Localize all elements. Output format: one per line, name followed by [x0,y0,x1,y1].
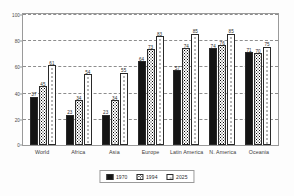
y-axis-tick-0: 0 [17,143,20,148]
bar[interactable]: 71 [245,52,253,145]
bar-value-label: 37 [31,92,36,97]
bar-wrap: 55 [120,14,128,145]
bar[interactable]: 74 [209,48,217,145]
bar-value-label: 75 [264,42,269,47]
bar-value-label: 85 [193,29,198,34]
bar-wrap: 23 [66,14,74,145]
bar[interactable]: 61 [48,65,56,145]
bar[interactable]: 73 [147,49,155,145]
legend-swatch [167,174,174,180]
bar-value-label: 54 [85,70,90,75]
bar-groups: 3745612334542334556473835774857476857170… [23,14,278,145]
bar-value-label: 34 [76,96,81,101]
bar-value-label: 73 [148,45,153,50]
y-axis-tick-100: 100 [12,13,20,18]
bar-wrap: 54 [84,14,92,145]
bar-wrap: 37 [30,14,38,145]
bar-wrap: 73 [147,14,155,145]
bar-group: 577485 [168,14,204,145]
bar-value-label: 57 [175,66,180,71]
bar-group: 717075 [240,14,276,145]
bar[interactable]: 23 [102,115,110,145]
legend-item[interactable]: 1994 [136,174,157,180]
bar-value-label: 74 [184,44,189,49]
bar[interactable]: 37 [30,97,38,145]
bar-value-label: 71 [246,48,251,53]
bar[interactable]: 54 [84,74,92,145]
bar-wrap: 74 [182,14,190,145]
bar[interactable]: 34 [75,100,83,145]
y-axis-tick-40: 40 [15,91,20,96]
bar[interactable]: 64 [138,61,146,145]
legend-label: 1994 [146,174,158,180]
x-axis-category-label: Africa [60,149,96,155]
bar-wrap: 64 [138,14,146,145]
plot-area: 100 80 60 40 20 0 3745612334542334556473… [22,13,279,146]
bar[interactable]: 75 [263,47,271,145]
bar[interactable]: 34 [111,100,119,145]
bar-wrap: 85 [191,14,199,145]
bar-value-label: 85 [229,29,234,34]
bar[interactable]: 57 [173,70,181,145]
bar-group: 233454 [61,14,97,145]
bar-value-label: 83 [157,32,162,37]
bar-value-label: 45 [40,82,45,87]
bar-wrap: 75 [263,14,271,145]
bar[interactable]: 83 [156,36,164,145]
bar[interactable]: 76 [218,45,226,145]
y-axis-tick-60: 60 [15,65,20,70]
bar-value-label: 34 [112,96,117,101]
bar-wrap: 70 [254,14,262,145]
bar[interactable]: 85 [191,34,199,145]
bar-value-label: 74 [211,44,216,49]
bar-wrap: 34 [75,14,83,145]
bar[interactable]: 74 [182,48,190,145]
bar-wrap: 45 [39,14,47,145]
legend-item[interactable]: 2025 [167,174,188,180]
bar[interactable]: 23 [66,115,74,145]
bar-wrap: 76 [218,14,226,145]
bar-value-label: 76 [220,41,225,46]
bar-wrap: 23 [102,14,110,145]
bar[interactable]: 55 [120,73,128,145]
bar-value-label: 61 [49,61,54,66]
legend-item[interactable]: 1970 [106,174,127,180]
x-axis-labels: WorldAfricaAsiaEuropeLatin AmericaN. Ame… [22,149,279,155]
bar[interactable]: 85 [227,34,235,145]
x-axis-category-label: N. America [205,149,241,155]
chart-legend: 197019942025 [99,170,194,183]
bar-wrap: 71 [245,14,253,145]
bar-group: 374561 [25,14,61,145]
x-axis-category-label: Oceania [241,149,277,155]
y-axis-tick-20: 20 [15,117,20,122]
bar-chart: 100 80 60 40 20 0 3745612334542334556473… [0,0,294,196]
x-axis-category-label: World [24,149,60,155]
legend-swatch [106,174,113,180]
legend-swatch [136,174,143,180]
x-axis-category-label: Europe [132,149,168,155]
bar-value-label: 64 [139,57,144,62]
y-axis-tick-80: 80 [15,39,20,44]
bar-value-label: 23 [103,110,108,115]
bar-wrap: 74 [209,14,217,145]
bar[interactable]: 45 [39,86,47,145]
bar-value-label: 55 [121,68,126,73]
legend-label: 1970 [116,174,128,180]
bar-group: 647383 [133,14,169,145]
bar-group: 747685 [204,14,240,145]
bar-wrap: 83 [156,14,164,145]
bar-wrap: 34 [111,14,119,145]
bar-wrap: 85 [227,14,235,145]
x-axis-category-label: Asia [96,149,132,155]
bar[interactable]: 70 [254,53,262,145]
x-axis-category-label: Latin America [169,149,205,155]
bar-group: 233455 [97,14,133,145]
bar-wrap: 57 [173,14,181,145]
bar-value-label: 23 [67,110,72,115]
legend-label: 2025 [176,174,188,180]
bar-wrap: 61 [48,14,56,145]
bar-value-label: 70 [255,49,260,54]
